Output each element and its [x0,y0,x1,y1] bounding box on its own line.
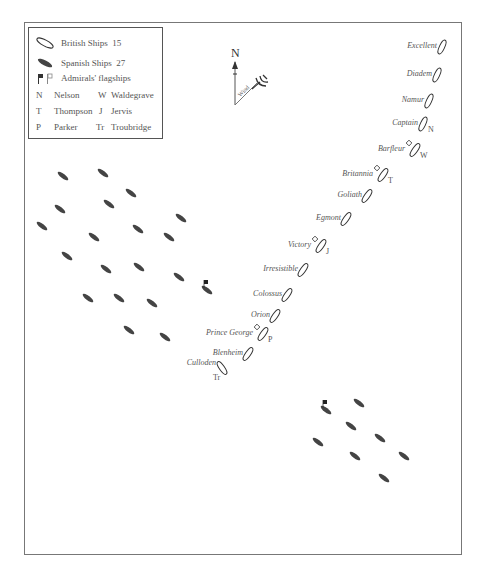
ship-name-label: Colossus [253,289,282,298]
spanish-ship [163,231,176,242]
british-ship [340,211,353,226]
ship-name-label: Barfleur [378,144,405,153]
admiral-marker: N [428,125,434,134]
ship-name-label: Egmont [316,213,341,222]
spanish-ship [133,261,146,272]
spanish-ship [201,280,214,296]
spanish-ship [125,187,138,198]
spanish-ship [349,450,362,461]
spanish-ship [113,292,126,303]
spanish-ship [320,400,333,416]
spanish-ship [132,223,145,234]
spanish-ship [398,450,411,461]
flag-icon [374,165,380,171]
british-ship [297,262,310,277]
spanish-ship [353,397,366,408]
admiral-marker: J [326,247,329,256]
ship-name-label: Goliath [338,190,362,199]
admiral-marker: W [420,151,428,160]
british-ship [423,93,434,109]
admiral-marker: P [268,335,272,344]
spanish-ship [374,432,387,443]
spanish-ship [88,231,101,242]
british-ship [361,188,374,203]
spanish-ship [175,212,188,223]
ship-name-label: Britannia [342,169,373,178]
spanish-ship [36,220,49,231]
british-ship [269,308,282,323]
battle-map: British Ships 15 Spanish Ships 27 Admira… [0,0,484,575]
spanish-ship [82,292,95,303]
spanish-ship [159,331,172,342]
spanish-ship [61,250,74,261]
ship-name-label: Orion [251,310,270,319]
british-ship [417,116,428,132]
spanish-ship [345,420,358,431]
ship-name-label: Namur [402,95,424,104]
british-ship [281,287,294,302]
ship-name-label: Victory [288,240,311,249]
ship-name-label: Captain [392,118,418,127]
flag-icon [312,236,318,242]
spanish-ship [54,203,67,214]
spanish-ship [97,167,110,178]
british-ship [436,39,447,55]
ship-name-label: Culloden [187,358,216,367]
ship-name-label: Prince George [206,328,253,337]
flag-icon [406,140,412,146]
spanish-ship [312,436,325,447]
ship-name-label: Blenheim [213,348,243,357]
spanish-ship [103,198,116,209]
ship-name-label: Excellent [407,41,437,50]
admiral-marker: Tr [213,373,220,382]
spanish-ship [378,472,391,483]
ship-name-label: Diadem [407,69,432,78]
flag-icon [323,400,327,404]
spanish-ship [123,324,136,335]
british-ship [242,346,255,361]
admiral-marker: T [388,176,393,185]
flag-icon [204,280,208,284]
flag-icon [254,324,260,330]
fleet-layer [0,0,484,575]
spanish-ship [146,297,159,308]
spanish-ship [173,271,186,282]
spanish-ship [57,170,70,181]
british-ship [431,67,442,83]
ship-name-label: Irresistible [263,264,298,273]
spanish-ship [100,263,113,274]
